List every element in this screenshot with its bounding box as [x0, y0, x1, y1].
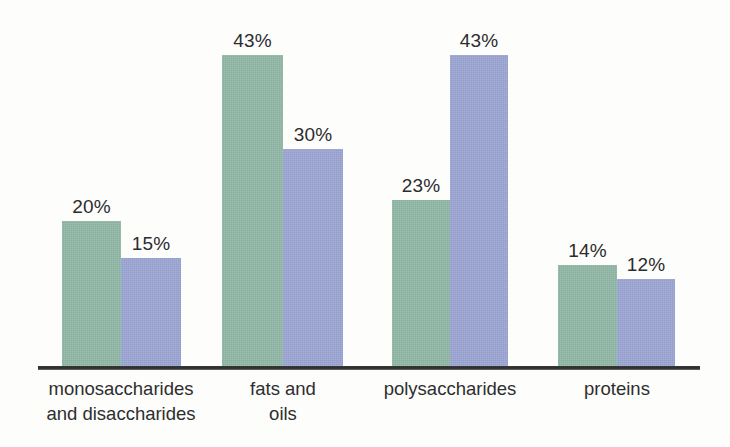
bar-value-label: 14% [558, 240, 617, 262]
bar-value-label: 20% [62, 196, 121, 218]
bar-value-label: 30% [283, 124, 343, 146]
bar-value-label: 43% [222, 30, 283, 52]
bar-chart: 20%15%43%30%23%43%14%12% monosaccharides… [0, 0, 730, 447]
bar-blue-series-3 [283, 149, 343, 366]
bar-blue-series-1 [121, 258, 181, 366]
bar-green-series-2 [222, 55, 283, 366]
bar-blue-series-5 [450, 55, 508, 366]
bar-green-series-4 [392, 200, 450, 366]
plot-area: 20%15%43%30%23%43%14%12% [0, 0, 730, 368]
x-axis-category-labels: monosaccharides and disaccharidesfats an… [0, 376, 730, 438]
x-axis-line [38, 366, 700, 370]
bar-value-label: 43% [450, 30, 508, 52]
bar-green-series-0 [62, 221, 121, 366]
bar-blue-series-7 [617, 279, 675, 366]
category-label-3: proteins [507, 376, 727, 401]
bar-green-series-6 [558, 265, 617, 366]
bar-value-label: 15% [121, 233, 181, 255]
bar-value-label: 23% [392, 175, 450, 197]
bar-value-label: 12% [617, 254, 675, 276]
